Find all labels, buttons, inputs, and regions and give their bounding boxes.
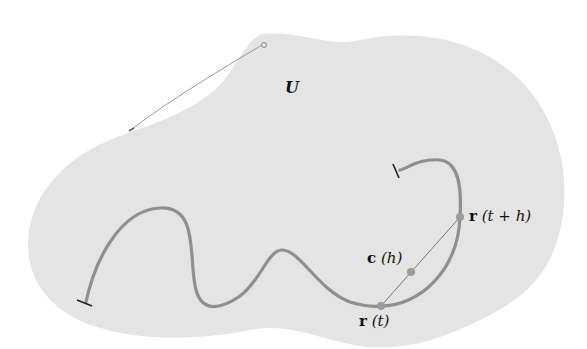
label-r-t-plus-h-arg: (t + h) [482, 207, 532, 225]
label-r-t-symbol: r [359, 312, 367, 330]
point-c-h [407, 268, 415, 276]
label-r-t-plus-h-symbol: r [469, 207, 477, 225]
point-r-t [377, 302, 385, 310]
small-tick-mark [129, 128, 134, 131]
label-c-h: c (h) [367, 249, 402, 267]
label-r-t: r (t) [359, 312, 389, 330]
label-c-h-arg: (h) [381, 249, 402, 267]
diagram-canvas [0, 0, 587, 349]
region-label-u: U [285, 78, 299, 97]
label-r-t-plus-h: r (t + h) [469, 207, 531, 225]
point-r-t-plus-h [456, 213, 464, 221]
label-c-h-symbol: c [367, 249, 376, 267]
label-r-t-arg: (t) [372, 312, 390, 330]
